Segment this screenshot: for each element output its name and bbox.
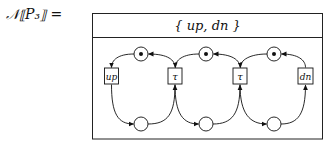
- place-p2: [199, 47, 213, 61]
- place-q2: [199, 117, 213, 131]
- token-icon: [139, 52, 143, 56]
- transition-tau-1: τ: [168, 68, 182, 84]
- action-set-header: { up, dn }: [174, 18, 240, 33]
- transition-label: τ: [237, 71, 243, 82]
- transition-label: dn: [300, 72, 312, 82]
- transition-up: up: [105, 68, 119, 84]
- petri-net-diagram: { up, dn }: [0, 0, 334, 142]
- token-icon: [272, 52, 276, 56]
- place-q1: [134, 117, 148, 131]
- transition-label: τ: [172, 71, 178, 82]
- transition-label: up: [106, 72, 118, 82]
- transition-tau-2: τ: [233, 68, 247, 84]
- token-icon: [204, 52, 208, 56]
- place-p3: [267, 47, 281, 61]
- place-p1: [134, 47, 148, 61]
- place-q3: [267, 117, 281, 131]
- transition-dn: dn: [298, 68, 313, 84]
